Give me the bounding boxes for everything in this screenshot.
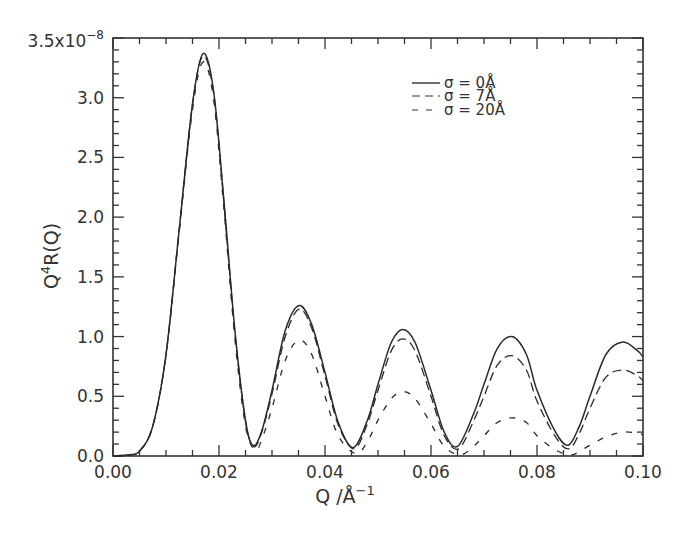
series-line-2 xyxy=(113,62,643,456)
series-line-0 xyxy=(113,53,643,456)
x-tick-label: 0.04 xyxy=(306,462,344,482)
x-tick-label: 0.06 xyxy=(412,462,450,482)
y-axis-label: Q4R(Q) xyxy=(38,223,62,289)
y-tick-label: 1.5 xyxy=(77,267,104,287)
y-tick-label: 0.0 xyxy=(77,446,104,466)
y-top-tick-label: 3.5x10−8 xyxy=(28,28,104,51)
legend-label: σ = 20Å xyxy=(444,100,506,119)
y-tick-label: 2.0 xyxy=(77,207,104,227)
x-axis-label: Q /Å−1 xyxy=(315,483,375,507)
legend: σ = 0Å σ = 7Å σ = 20Å xyxy=(412,73,506,119)
x-tick-label: 0.02 xyxy=(200,462,238,482)
tick-labels: 0.000.020.040.060.080.100.00.51.01.52.02… xyxy=(77,88,662,482)
curves xyxy=(113,53,643,456)
y-tick-label: 1.0 xyxy=(77,327,104,347)
x-tick-label: 0.08 xyxy=(518,462,556,482)
x-tick-label: 0.10 xyxy=(624,462,662,482)
y-tick-label: 0.5 xyxy=(77,386,104,406)
series-line-1 xyxy=(113,56,643,456)
y-tick-label: 2.5 xyxy=(77,147,104,167)
y-tick-label: 3.0 xyxy=(77,88,104,108)
reflectivity-chart: 0.000.020.040.060.080.100.00.51.01.52.02… xyxy=(0,0,675,536)
